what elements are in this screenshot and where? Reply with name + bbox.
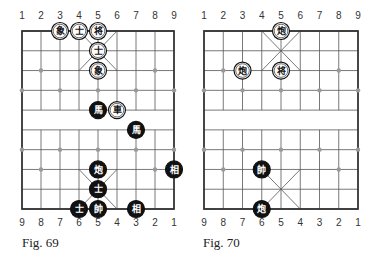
position-marker	[221, 68, 225, 72]
position-marker	[58, 88, 62, 92]
file-label-bottom: 7	[240, 217, 246, 228]
piece-black[interactable]: 相	[128, 201, 145, 218]
file-label-bottom: 8	[38, 217, 44, 228]
svg-text:炮: 炮	[257, 203, 266, 214]
file-label-top: 5	[278, 10, 284, 21]
file-label-bottom: 3	[317, 217, 323, 228]
file-label-top: 6	[114, 10, 120, 21]
file-label-bottom: 6	[76, 217, 82, 228]
file-label-top: 5	[95, 10, 101, 21]
position-marker	[279, 88, 283, 92]
svg-text:炮: 炮	[94, 164, 103, 175]
piece-white[interactable]: 士	[90, 42, 107, 59]
position-marker	[172, 147, 176, 151]
piece-white[interactable]: 象	[90, 62, 107, 79]
svg-text:車: 車	[113, 104, 122, 115]
file-label-top: 2	[220, 10, 226, 21]
file-label-bottom: 9	[201, 217, 207, 228]
position-marker	[356, 147, 360, 151]
position-marker	[153, 167, 157, 171]
position-marker	[317, 88, 321, 92]
position-marker	[337, 68, 341, 72]
svg-text:相: 相	[132, 203, 141, 214]
file-label-bottom: 3	[133, 217, 139, 228]
position-marker	[240, 147, 244, 151]
position-marker	[96, 147, 100, 151]
piece-white[interactable]: 炮	[234, 62, 251, 79]
svg-text:炮: 炮	[238, 65, 247, 76]
position-marker	[20, 147, 24, 151]
position-marker	[153, 68, 157, 72]
piece-white[interactable]: 士	[71, 23, 88, 40]
file-label-bottom: 2	[152, 217, 158, 228]
piece-white[interactable]: 将	[90, 23, 107, 40]
file-label-top: 8	[152, 10, 158, 21]
file-label-bottom: 4	[114, 217, 120, 228]
xiangqi-board-69: 123456789987654321象士将士象馬車馬相炮士士帥相	[0, 0, 189, 266]
position-marker	[202, 88, 206, 92]
svg-text:士: 士	[75, 25, 84, 36]
position-marker	[96, 88, 100, 92]
piece-black[interactable]: 帥	[253, 161, 270, 178]
piece-black[interactable]: 炮	[253, 201, 270, 218]
piece-black[interactable]: 馬	[128, 121, 145, 138]
svg-text:馬: 馬	[93, 105, 103, 115]
xiangqi-board-70: 123456789987654321炮炮将帥炮	[189, 0, 378, 266]
position-marker	[172, 88, 176, 92]
file-label-bottom: 9	[19, 217, 25, 228]
piece-black[interactable]: 士	[71, 201, 88, 218]
position-marker	[279, 147, 283, 151]
file-label-top: 7	[133, 10, 139, 21]
figure-caption: Fig. 70	[203, 235, 240, 251]
svg-text:将: 将	[277, 65, 286, 76]
figure-69: 123456789987654321象士将士象馬車馬相炮士士帥相 Fig. 69	[0, 0, 189, 266]
svg-text:士: 士	[94, 183, 103, 194]
file-label-bottom: 7	[57, 217, 63, 228]
svg-text:士: 士	[75, 203, 84, 214]
position-marker	[20, 88, 24, 92]
file-label-top: 9	[171, 10, 177, 21]
file-label-top: 6	[297, 10, 303, 21]
svg-text:士: 士	[94, 45, 103, 56]
file-label-bottom: 1	[355, 217, 361, 228]
position-marker	[39, 167, 43, 171]
file-label-top: 1	[19, 10, 25, 21]
file-label-bottom: 2	[336, 217, 342, 228]
piece-white[interactable]: 車	[109, 102, 126, 119]
position-marker	[337, 167, 341, 171]
svg-text:炮: 炮	[277, 25, 286, 36]
piece-white[interactable]: 象	[52, 23, 69, 40]
position-marker	[202, 147, 206, 151]
position-marker	[134, 147, 138, 151]
piece-black[interactable]: 士	[90, 181, 107, 198]
piece-black[interactable]: 炮	[90, 161, 107, 178]
figure-70: 123456789987654321炮炮将帥炮 Fig. 70	[189, 0, 378, 266]
file-label-bottom: 1	[171, 217, 177, 228]
file-label-top: 2	[38, 10, 44, 21]
figure-caption: Fig. 69	[22, 235, 59, 251]
file-label-top: 4	[76, 10, 82, 21]
piece-black[interactable]: 相	[166, 161, 183, 178]
file-label-top: 7	[317, 10, 323, 21]
piece-white[interactable]: 将	[273, 62, 290, 79]
svg-text:馬: 馬	[131, 125, 141, 135]
file-label-bottom: 8	[220, 217, 226, 228]
piece-white[interactable]: 炮	[273, 23, 290, 40]
position-marker	[221, 167, 225, 171]
file-label-top: 4	[259, 10, 265, 21]
position-marker	[58, 147, 62, 151]
piece-black[interactable]: 馬	[90, 102, 107, 119]
file-label-top: 3	[57, 10, 63, 21]
position-marker	[317, 147, 321, 151]
svg-text:相: 相	[170, 164, 179, 175]
position-marker	[240, 88, 244, 92]
file-label-top: 1	[201, 10, 207, 21]
file-label-bottom: 6	[259, 217, 265, 228]
position-marker	[39, 68, 43, 72]
svg-text:帥: 帥	[257, 164, 266, 175]
svg-text:象: 象	[94, 65, 103, 76]
file-label-bottom: 5	[95, 217, 101, 228]
svg-text:帥: 帥	[94, 203, 103, 214]
position-marker	[134, 88, 138, 92]
piece-black[interactable]: 帥	[90, 201, 107, 218]
